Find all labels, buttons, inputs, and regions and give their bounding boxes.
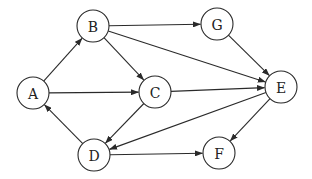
edge-e-to-f [230,99,270,141]
node-g: G [201,8,233,40]
node-f: F [203,137,235,169]
edge-e-to-d [110,92,266,149]
node-label: E [276,80,286,96]
node-c: C [139,76,171,108]
directed-graph: ABCDEFG [0,0,312,179]
edge-b-to-g [109,24,201,25]
edge-c-to-e [171,88,265,92]
node-label: A [27,86,39,102]
nodes-layer: ABCDEFG [17,8,297,171]
node-label: F [214,146,224,162]
edge-b-to-c [104,38,144,80]
edge-c-to-d [105,103,143,143]
edge-d-to-f [110,153,203,154]
node-b: B [77,10,109,42]
edge-a-to-c [49,92,139,93]
edge-b-to-e [108,31,265,82]
node-label: G [211,17,222,33]
node-e: E [265,71,297,103]
node-label: D [88,148,99,164]
node-label: B [88,19,98,35]
node-a: A [17,77,49,109]
edge-d-to-a [45,105,83,144]
edge-a-to-b [44,38,82,81]
edge-g-to-e [228,35,269,75]
node-d: D [78,139,110,171]
node-label: C [150,85,161,101]
